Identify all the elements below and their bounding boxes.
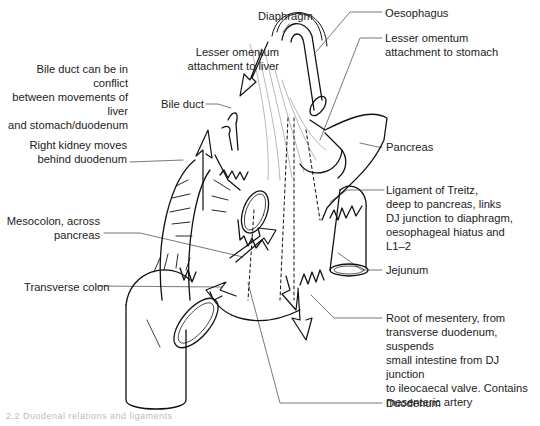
label-pancreas: Pancreas xyxy=(386,140,433,154)
label-jejunum: Jejunum xyxy=(386,263,428,277)
label-mesocolon: Mesocolon, across pancreas xyxy=(4,214,100,242)
label-root-of-mesentery: Root of mesentery, from transverse duode… xyxy=(386,311,540,409)
label-lesser-omentum-stomach: Lesser omentum attachment to stomach xyxy=(385,31,498,59)
label-oesophagus: Oesophagus xyxy=(385,6,448,20)
label-diaphragm: Diaphragm xyxy=(258,9,313,23)
label-lesser-omentum-liver: Lesser omentum attachment to liver xyxy=(157,45,279,73)
label-right-kidney: Right kidney moves behind duodenum xyxy=(20,138,127,166)
label-bile-duct-conflict: Bile duct can be in conflict between mov… xyxy=(4,62,128,132)
figure-caption: 2.2 Duodenal relations and ligaments xyxy=(6,411,173,421)
label-duodenum: Duodenum xyxy=(386,396,441,410)
label-ligament-of-treitz: Ligament of Treitz, deep to pancreas, li… xyxy=(386,183,513,253)
label-bile-duct: Bile duct xyxy=(161,97,204,111)
label-transverse-colon: Transverse colon xyxy=(24,280,109,294)
